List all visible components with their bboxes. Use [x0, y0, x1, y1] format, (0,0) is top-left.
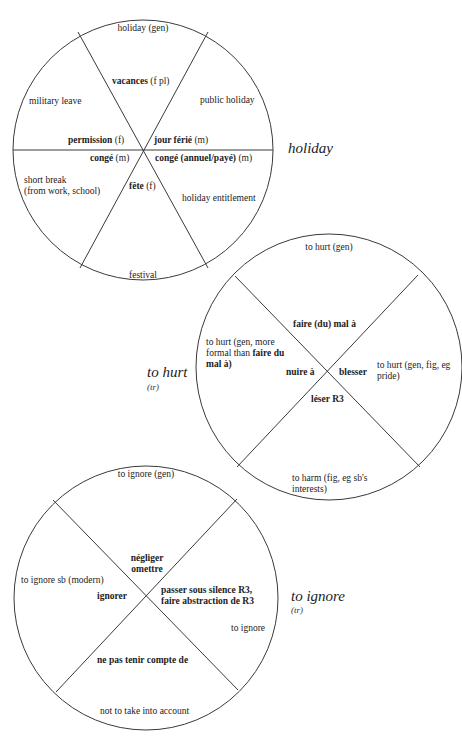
term: permission	[68, 135, 112, 145]
to-hurt-top-term: faire (du) mal à	[293, 319, 356, 330]
holiday-lower-left-term: congé (m)	[90, 153, 129, 164]
to-ignore-right-term: passer sous silence R3, faire abstractio…	[161, 585, 254, 607]
gloss-line-1: short break	[24, 175, 100, 186]
to-hurt-top-gloss: to hurt (gen)	[294, 242, 364, 253]
gloss-line-2: (from work, school)	[24, 186, 100, 197]
gloss-line-1: to hurt (gen, fig, eg	[377, 360, 450, 371]
to-ignore-top-gloss: to ignore (gen)	[110, 469, 182, 480]
grammar: (f)	[144, 181, 156, 191]
holiday-lower-right-gloss: holiday entitlement	[182, 193, 256, 204]
grammar: (m)	[192, 135, 208, 145]
term-line-2: omettre	[122, 564, 172, 575]
gloss-line-2: interests)	[292, 484, 367, 495]
term: congé (annuel/payé)	[155, 153, 236, 163]
to-ignore-bottom-term: ne pas tenir compte de	[97, 655, 188, 666]
to-hurt-headword: to hurt	[147, 364, 187, 381]
to-hurt-right-gloss: to hurt (gen, fig, eg pride)	[377, 360, 450, 382]
gloss-line-2: formal than faire du	[206, 348, 284, 359]
to-ignore-right-gloss: to ignore	[231, 623, 265, 634]
cross-ref-term: faire du	[252, 348, 284, 358]
term: jour férié	[154, 135, 192, 145]
grammar: (m)	[113, 153, 129, 163]
term-line-1: négliger	[122, 553, 172, 564]
term: fête	[129, 181, 144, 191]
to-ignore-bottom-gloss: not to take into account	[100, 706, 189, 717]
to-hurt-left-gloss: to hurt (gen, more formal than faire du …	[206, 337, 284, 370]
to-ignore-headword: to ignore	[291, 588, 345, 605]
gloss-line-1: to harm (fig, eg sb's	[292, 473, 367, 484]
holiday-upper-left-term: permission (f)	[68, 135, 124, 146]
to-hurt-bottom-term: léser R3	[311, 394, 344, 405]
gloss-line-1: to hurt (gen, more	[206, 337, 284, 348]
grammar: (f pl)	[148, 76, 170, 86]
term: congé	[90, 153, 113, 163]
holiday-bottom-gloss: festival	[113, 270, 173, 281]
to-hurt-left-term: nuire à	[286, 367, 315, 378]
to-ignore-grammar: (tr)	[291, 605, 303, 615]
to-ignore-top-term: négliger omettre	[122, 553, 172, 575]
gloss-line-3: mal à)	[206, 359, 284, 370]
grammar: (m)	[236, 153, 252, 163]
holiday-upper-right-term: jour férié (m)	[154, 135, 208, 146]
term-line-2: faire abstraction de R3	[161, 596, 254, 607]
holiday-top-term: vacances (f pl)	[112, 76, 170, 87]
holiday-lower-right-term: congé (annuel/payé) (m)	[155, 153, 252, 164]
holiday-lower-left-gloss: short break(from work, school)	[24, 175, 100, 197]
term: vacances	[112, 76, 148, 86]
holiday-headword: holiday	[288, 140, 333, 157]
to-hurt-bottom-gloss: to harm (fig, eg sb's interests)	[292, 473, 367, 495]
to-ignore-left-gloss: to ignore sb (modern)	[21, 575, 104, 586]
gloss-text: formal than	[206, 348, 252, 358]
gloss-line-2: pride)	[377, 371, 450, 382]
holiday-wheel	[13, 20, 273, 280]
term-line-1: passer sous silence R3,	[161, 585, 254, 596]
to-hurt-right-term: blesser	[339, 367, 367, 378]
to-hurt-grammar: (tr)	[147, 382, 159, 392]
to-ignore-left-term: ignorer	[97, 591, 127, 602]
grammar: (f)	[112, 135, 124, 145]
holiday-top-gloss: holiday (gen)	[113, 23, 173, 34]
holiday-bottom-term: fête (f)	[129, 181, 156, 192]
holiday-upper-right-gloss: public holiday	[200, 95, 255, 106]
holiday-upper-left-gloss: military leave	[29, 96, 82, 107]
